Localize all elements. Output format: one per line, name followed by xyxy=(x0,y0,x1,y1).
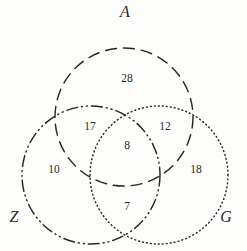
region-count-a-and-g: 12 xyxy=(159,120,171,132)
region-count-a-and-z: 17 xyxy=(84,120,96,132)
set-label-a: A xyxy=(119,3,130,20)
set-label-g: G xyxy=(220,208,232,225)
region-count-a-only: 28 xyxy=(121,72,133,84)
venn-canvas: A Z G 28 17 12 8 10 18 7 xyxy=(0,0,247,251)
region-count-z-and-g: 7 xyxy=(124,200,130,212)
set-label-z: Z xyxy=(10,208,20,225)
region-count-g-only: 18 xyxy=(190,163,202,175)
region-count-z-only: 10 xyxy=(48,163,60,175)
venn-diagram: A Z G 28 17 12 8 10 18 7 xyxy=(0,0,247,251)
circle-set-a xyxy=(55,48,193,186)
region-count-a-z-g: 8 xyxy=(124,139,130,151)
